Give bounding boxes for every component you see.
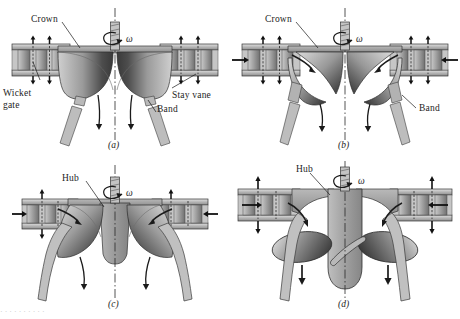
omega-symbol-c: ω xyxy=(126,188,133,198)
band-right xyxy=(388,82,402,103)
draft-tube-left xyxy=(280,102,300,145)
draft-tube-right xyxy=(390,102,410,145)
label-hub-d: Hub xyxy=(296,164,313,175)
omega-symbol-d: ω xyxy=(358,176,365,186)
page-bleed-text: · · · · · · · · · · xyxy=(0,307,460,319)
label-wicket-gate-a-line1: Wicket xyxy=(3,88,31,99)
band-right xyxy=(144,96,156,106)
propeller-blade-left xyxy=(270,228,334,266)
label-wicket-gate-a-line2: gate xyxy=(3,100,20,111)
label-band-a: Band xyxy=(157,104,178,115)
label-hub-c: Hub xyxy=(62,173,79,184)
band-left xyxy=(288,82,302,103)
shaft xyxy=(111,22,120,50)
propeller-blade-right xyxy=(356,228,420,266)
runner-blade-right xyxy=(117,52,172,99)
omega-symbol-a: ω xyxy=(126,34,133,44)
draft-tube-left xyxy=(60,106,82,146)
label-stay-vane-a: Stay vane xyxy=(172,90,211,101)
runner-blade-left xyxy=(58,52,113,99)
panel-caption-b: (b) xyxy=(338,140,349,150)
panel-d xyxy=(230,159,460,319)
panel-c xyxy=(0,159,230,319)
panel-caption-a: (a) xyxy=(108,140,119,150)
turbine-runner-figure: Crown Wicket gate Stay vane Band ω (a) xyxy=(0,0,460,319)
band-left xyxy=(74,96,86,106)
shaft xyxy=(341,22,350,50)
label-band-b: Band xyxy=(419,103,440,114)
omega-symbol-b: ω xyxy=(356,34,363,44)
shaft xyxy=(111,177,120,203)
label-crown-b: Crown xyxy=(265,14,292,25)
label-crown-a: Crown xyxy=(31,14,58,25)
